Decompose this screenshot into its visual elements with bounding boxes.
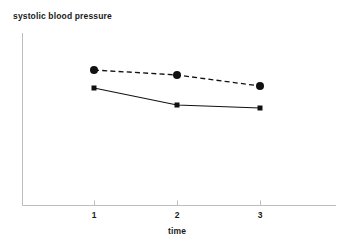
- series-circles-dashed-marker-3: [256, 82, 264, 90]
- chart-figure: systolic blood pressure 123 time: [0, 0, 351, 244]
- plot-area: [0, 0, 351, 244]
- series-squares-solid-marker-3: [258, 106, 263, 111]
- tick-marks: [95, 201, 261, 206]
- x-tick-label-2: 2: [167, 210, 187, 220]
- series-circles-dashed-marker-1: [90, 66, 98, 74]
- axes: [23, 33, 337, 206]
- series-squares-solid-marker-2: [175, 103, 180, 108]
- series-markers: [90, 66, 264, 111]
- series-squares-solid-marker-1: [92, 86, 97, 91]
- x-tick-label-3: 3: [250, 210, 270, 220]
- x-tick-label-1: 1: [84, 210, 104, 220]
- series-circles-dashed-marker-2: [173, 71, 181, 79]
- x-axis-label: time: [147, 226, 207, 236]
